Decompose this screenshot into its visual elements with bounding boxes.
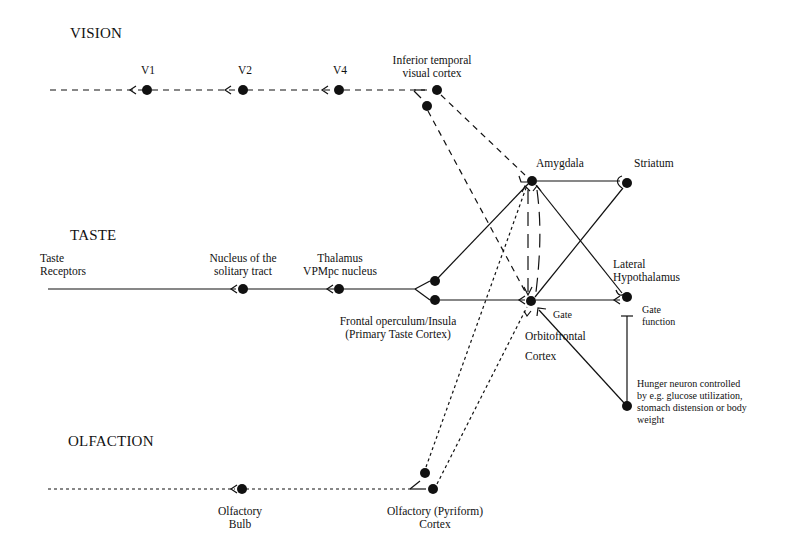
label-taste-receptors: Taste Receptors (40, 252, 86, 278)
pathway-diagram (0, 0, 804, 558)
node-v1 (142, 85, 152, 95)
node-amygdala (527, 176, 537, 186)
node-lh (622, 292, 632, 302)
label-gate-function: Gate function (642, 304, 675, 328)
node-pyr-a (420, 468, 430, 478)
label-thalamus: Thalamus VPMpc nucleus (303, 252, 377, 278)
label-lateral-hypothalamus: Lateral Hypothalamus (613, 258, 680, 284)
node-ofc (526, 296, 536, 306)
node-thalamus (334, 284, 344, 294)
label-amygdala: Amygdala (536, 157, 584, 170)
label-orbitofrontal-cortex: Orbitofrontal Cortex (525, 326, 586, 366)
node-pyr-b (428, 484, 438, 494)
section-taste: TASTE (70, 227, 116, 244)
node-v2 (238, 85, 248, 95)
label-v4: V4 (333, 64, 347, 77)
label-pyriform-cortex: Olfactory (Pyriform) Cortex (387, 505, 483, 531)
section-olfaction: OLFACTION (68, 433, 154, 450)
node-fo-a (430, 276, 440, 286)
node-it-a (432, 85, 442, 95)
node-hunger (622, 401, 632, 411)
node-v4 (334, 85, 344, 95)
label-striatum: Striatum (634, 157, 674, 170)
label-nucleus-solitary-tract: Nucleus of the solitary tract (209, 252, 276, 278)
section-vision: VISION (70, 25, 122, 42)
label-inferior-temporal: Inferior temporal visual cortex (393, 54, 472, 80)
node-olf-bulb (237, 484, 247, 494)
node-nts (238, 284, 248, 294)
label-olfactory-bulb: Olfactory Bulb (218, 505, 262, 531)
node-fo-b (430, 295, 440, 305)
node-striatum (622, 178, 632, 188)
label-v2: V2 (238, 64, 252, 77)
label-gate: Gate (553, 309, 572, 321)
label-frontal-operculum: Frontal operculum/Insula (Primary Taste … (340, 315, 457, 341)
node-it-b (422, 101, 432, 111)
label-v1: V1 (141, 64, 155, 77)
label-hunger-neuron: Hunger neuron controlled by e.g. glucose… (637, 378, 747, 426)
